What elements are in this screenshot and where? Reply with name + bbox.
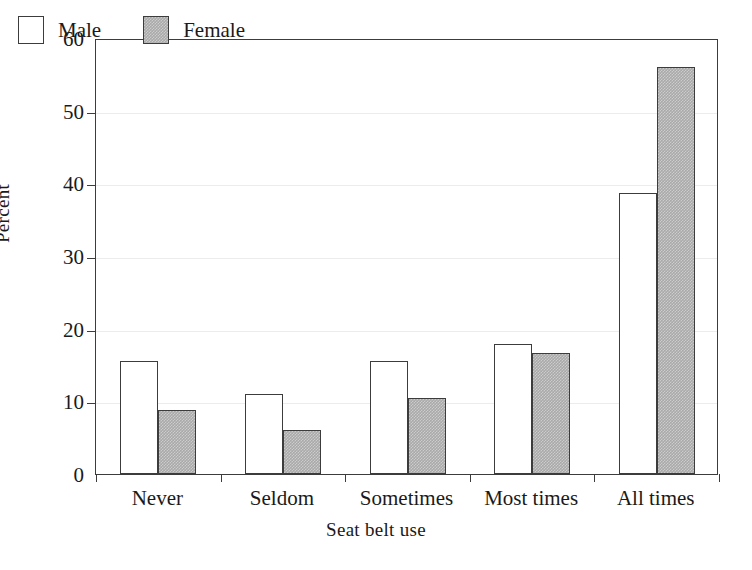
bar-male-all-times bbox=[619, 193, 657, 474]
bar-female-seldom bbox=[283, 430, 321, 474]
x-axis-tick bbox=[470, 474, 471, 482]
y-axis-tick bbox=[87, 331, 96, 332]
x-axis-tick-label: All times bbox=[617, 486, 695, 511]
y-axis-tick-label: 40 bbox=[24, 172, 84, 197]
bar-male-most-times bbox=[494, 344, 532, 474]
bar-female-never bbox=[158, 410, 196, 474]
gridline bbox=[96, 185, 717, 186]
legend-swatch-male-icon bbox=[18, 16, 44, 44]
plot-area bbox=[95, 39, 718, 475]
y-axis-tick-label: 10 bbox=[24, 390, 84, 415]
y-axis-tick-label: 30 bbox=[24, 245, 84, 270]
bar-female-all-times bbox=[657, 67, 695, 474]
x-axis-tick-label: Most times bbox=[484, 486, 578, 511]
x-axis-tick-label: Sometimes bbox=[360, 486, 453, 511]
x-axis-tick-label: Never bbox=[132, 486, 183, 511]
legend-swatch-female-icon bbox=[143, 16, 169, 44]
x-axis-tick bbox=[594, 474, 595, 482]
y-axis-tick-label: 0 bbox=[24, 463, 84, 488]
x-axis-tick-label: Seldom bbox=[250, 486, 314, 511]
x-axis-tick bbox=[96, 474, 97, 482]
y-axis-tick bbox=[87, 258, 96, 259]
bar-female-sometimes bbox=[408, 398, 446, 474]
bar-male-seldom bbox=[245, 394, 283, 474]
x-axis-title: Seat belt use bbox=[0, 519, 752, 541]
y-axis-tick bbox=[87, 403, 96, 404]
gridline bbox=[96, 113, 717, 114]
bar-female-most-times bbox=[532, 353, 570, 474]
legend-label-male: Male bbox=[58, 18, 101, 43]
bar-male-never bbox=[120, 361, 158, 474]
x-axis-tick-labels: NeverSeldomSometimesMost timesAll times bbox=[95, 486, 718, 516]
y-axis-tick-label: 50 bbox=[24, 99, 84, 124]
legend-entry-male: Male bbox=[18, 16, 101, 44]
x-axis-tick bbox=[719, 474, 720, 482]
legend-entry-female: Female bbox=[143, 16, 245, 44]
legend-label-female: Female bbox=[183, 18, 245, 43]
x-axis-tick bbox=[221, 474, 222, 482]
y-axis-tick bbox=[87, 185, 96, 186]
bar-chart: Percent 0102030405060 NeverSeldomSometim… bbox=[0, 0, 752, 570]
chart-legend: Male Female bbox=[18, 16, 245, 44]
y-axis-tick-label: 20 bbox=[24, 317, 84, 342]
x-axis-tick bbox=[345, 474, 346, 482]
bar-male-sometimes bbox=[370, 361, 408, 474]
y-axis-tick bbox=[87, 113, 96, 114]
